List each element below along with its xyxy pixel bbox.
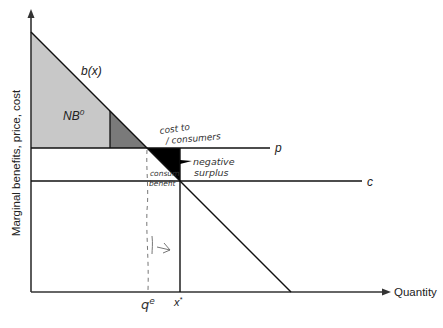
qe-label: qe bbox=[141, 296, 155, 312]
hand-arrow-icon bbox=[152, 236, 170, 254]
x-axis-label: Quantity bbox=[394, 286, 437, 298]
y-axis-arrow-icon bbox=[28, 9, 35, 18]
cost-line-label: c bbox=[367, 175, 373, 189]
negative-surplus-line1: negative bbox=[193, 156, 235, 167]
price-line-label: p bbox=[274, 141, 282, 155]
negative-surplus-line2: surplus bbox=[194, 167, 229, 178]
x-axis-arrow-icon bbox=[382, 289, 391, 296]
x-star-label: x* bbox=[173, 296, 183, 308]
y-axis-label: Marginal benefits, price, cost bbox=[10, 89, 22, 236]
economics-diagram: Marginal benefits, price, cost Quantity … bbox=[0, 0, 443, 328]
pointer-arrow-icon bbox=[180, 160, 192, 164]
benefit-curve bbox=[31, 32, 291, 292]
benefit-curve-label: b(x) bbox=[81, 64, 102, 78]
consumer-benefit-line2: benefit bbox=[149, 179, 177, 188]
consumer-benefit-line1: consum bbox=[150, 169, 179, 178]
qe-dashed-line bbox=[147, 150, 148, 290]
nb0-region bbox=[31, 32, 110, 148]
